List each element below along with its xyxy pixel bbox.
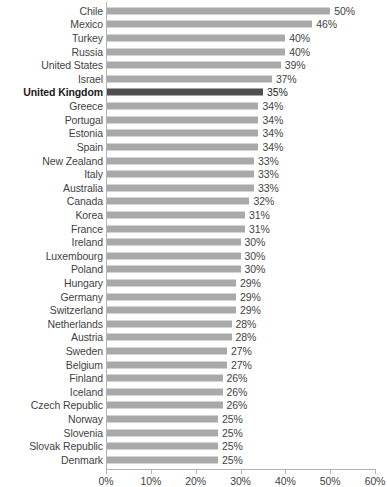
bar[interactable]	[106, 157, 254, 164]
bar-value-label: 34%	[262, 101, 283, 112]
bar-row[interactable]: Mexico46%	[0, 18, 387, 32]
bar[interactable]	[106, 402, 223, 409]
bar[interactable]	[106, 443, 218, 450]
category-label: Iceland	[70, 386, 103, 397]
bar-row[interactable]: Estonia34%	[0, 126, 387, 140]
bar[interactable]	[106, 198, 249, 205]
bar-row[interactable]: United Kingdom35%	[0, 86, 387, 100]
bar-row[interactable]: Australia33%	[0, 181, 387, 195]
bar-row[interactable]: Spain34%	[0, 140, 387, 154]
bar[interactable]	[106, 225, 245, 232]
bar-row[interactable]: Israel37%	[0, 72, 387, 86]
bar[interactable]	[106, 348, 227, 355]
bar-row[interactable]: Belgium27%	[0, 358, 387, 372]
bar-row[interactable]: New Zealand33%	[0, 154, 387, 168]
bar-track	[106, 198, 375, 205]
bar-value-label: 34%	[262, 141, 283, 152]
bar-row[interactable]: Luxembourg30%	[0, 249, 387, 263]
bar-row[interactable]: Poland30%	[0, 263, 387, 277]
bar-row[interactable]: Switzerland29%	[0, 303, 387, 317]
bar-row[interactable]: Turkey40%	[0, 31, 387, 45]
bar-row[interactable]: Austria28%	[0, 331, 387, 345]
bar[interactable]	[106, 239, 241, 246]
bar[interactable]	[106, 35, 285, 42]
bar-value-label: 46%	[316, 19, 337, 30]
bar[interactable]	[106, 279, 236, 286]
bar-row[interactable]: Denmark25%	[0, 453, 387, 467]
bar-value-label: 26%	[227, 400, 248, 411]
bar-row[interactable]: Italy33%	[0, 167, 387, 181]
bar-track	[106, 35, 375, 42]
bar[interactable]	[106, 184, 254, 191]
bar-row[interactable]: Czech Republic26%	[0, 399, 387, 413]
bar[interactable]	[106, 211, 245, 218]
bar-value-label: 33%	[258, 169, 279, 180]
x-axis-tick	[106, 470, 107, 474]
bar-row[interactable]: Sweden27%	[0, 344, 387, 358]
bar-value-label: 26%	[227, 373, 248, 384]
bar[interactable]	[106, 266, 241, 273]
bar-row[interactable]: Russia40%	[0, 45, 387, 59]
bar-row[interactable]: Greece34%	[0, 99, 387, 113]
x-axis-tick	[375, 470, 376, 474]
bar-row[interactable]: Hungary29%	[0, 276, 387, 290]
bar-row[interactable]: Slovenia25%	[0, 426, 387, 440]
bar-row[interactable]: Canada32%	[0, 195, 387, 209]
bar-row[interactable]: France31%	[0, 222, 387, 236]
x-axis-tick-label: 0%	[99, 476, 114, 487]
bar-row[interactable]: Norway25%	[0, 412, 387, 426]
bar-row[interactable]: Netherlands28%	[0, 317, 387, 331]
bar-value-label: 26%	[227, 386, 248, 397]
bar[interactable]	[106, 89, 263, 96]
bar-value-label: 29%	[240, 291, 261, 302]
bar-row[interactable]: Germany29%	[0, 290, 387, 304]
category-label: Estonia	[69, 128, 103, 139]
bar[interactable]	[106, 293, 236, 300]
bar-row[interactable]: Korea31%	[0, 208, 387, 222]
bar-value-label: 27%	[231, 346, 252, 357]
bar[interactable]	[106, 103, 258, 110]
bar[interactable]	[106, 334, 232, 341]
bar[interactable]	[106, 456, 218, 463]
category-label: Mexico	[70, 19, 103, 30]
bar-row[interactable]: Finland26%	[0, 371, 387, 385]
bar[interactable]	[106, 307, 236, 314]
bar[interactable]	[106, 143, 258, 150]
bar[interactable]	[106, 388, 223, 395]
category-label: Italy	[84, 169, 103, 180]
bar-row[interactable]: Iceland26%	[0, 385, 387, 399]
bar[interactable]	[106, 429, 218, 436]
category-label: Chile	[80, 5, 103, 16]
category-label: Greece	[69, 101, 103, 112]
x-axis-tick-label: 50%	[320, 476, 341, 487]
bar-row[interactable]: Ireland30%	[0, 235, 387, 249]
bar[interactable]	[106, 252, 241, 259]
bar-row[interactable]: Chile50%	[0, 4, 387, 18]
bar[interactable]	[106, 62, 281, 69]
bar-track	[106, 239, 375, 246]
bar-track	[106, 225, 375, 232]
bar[interactable]	[106, 7, 330, 14]
bar[interactable]	[106, 171, 254, 178]
category-label: Hungary	[64, 277, 103, 288]
bar[interactable]	[106, 416, 218, 423]
bar-row[interactable]: Portugal34%	[0, 113, 387, 127]
category-label: Sweden	[66, 346, 103, 357]
category-label: Czech Republic	[31, 400, 103, 411]
bar[interactable]	[106, 75, 272, 82]
bar[interactable]	[106, 116, 258, 123]
bar[interactable]	[106, 361, 227, 368]
bar[interactable]	[106, 48, 285, 55]
bar-value-label: 35%	[267, 87, 288, 98]
y-axis-line	[106, 2, 107, 469]
bar-row[interactable]: United States39%	[0, 58, 387, 72]
x-axis-tick	[285, 470, 286, 474]
bar-value-label: 37%	[276, 73, 297, 84]
bar-value-label: 25%	[222, 441, 243, 452]
bar[interactable]	[106, 130, 258, 137]
bar[interactable]	[106, 21, 312, 28]
bar-row[interactable]: Slovak Republic25%	[0, 440, 387, 454]
bar-value-label: 30%	[245, 237, 266, 248]
bar[interactable]	[106, 320, 232, 327]
bar[interactable]	[106, 375, 223, 382]
